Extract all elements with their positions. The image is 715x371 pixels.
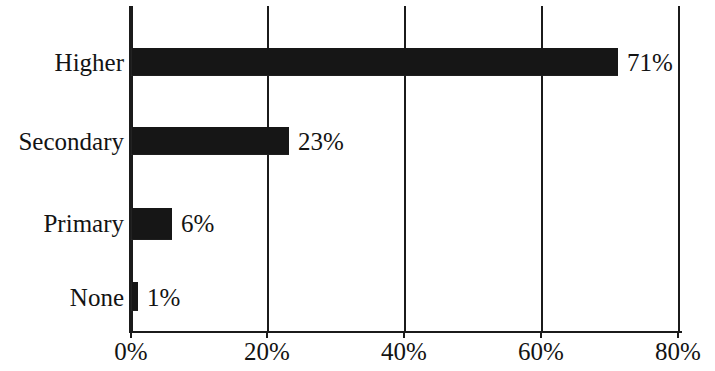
x-tick-label-80: 80% [633,339,715,364]
bar-none [131,282,138,311]
category-label-primary: Primary [0,211,124,236]
x-tick-mark-40 [403,331,405,338]
category-label-secondary: Secondary [0,129,124,154]
category-label-higher: Higher [0,50,124,75]
gridline-80 [678,6,680,331]
value-label-secondary: 23% [298,129,344,154]
bar-secondary [131,127,289,155]
bar-higher [131,48,618,76]
x-tick-mark-80 [677,331,679,338]
x-axis-line [129,331,682,333]
x-tick-label-60: 60% [496,339,586,364]
x-tick-mark-20 [266,331,268,338]
bar-primary [131,208,172,240]
value-label-higher: 71% [627,50,673,75]
x-tick-label-0: 0% [86,339,176,364]
value-label-none: 1% [147,285,180,310]
x-tick-label-20: 20% [222,339,312,364]
x-tick-mark-0 [130,331,132,338]
x-tick-mark-60 [540,331,542,338]
category-label-none: None [0,285,124,310]
value-label-primary: 6% [181,211,214,236]
bar-chart: Higher Secondary Primary None 71% 23% 6%… [0,0,715,371]
x-tick-label-40: 40% [359,339,449,364]
